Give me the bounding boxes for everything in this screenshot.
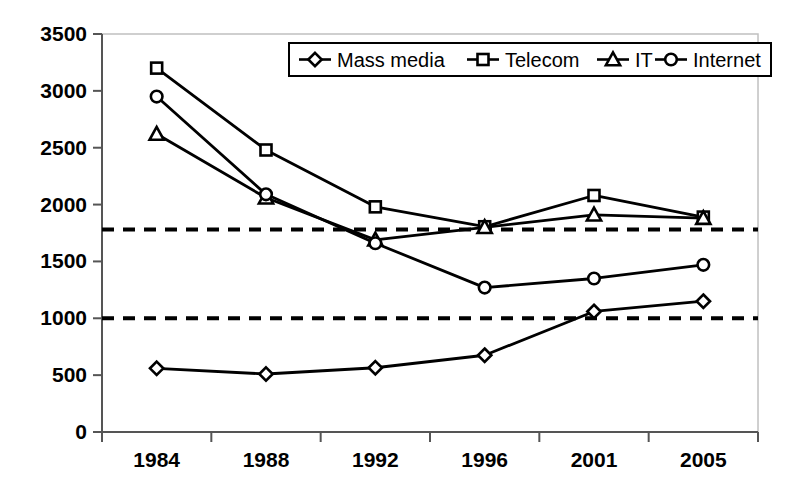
marker-circle [698, 259, 710, 271]
marker-circle [665, 54, 677, 66]
marker-square [478, 54, 489, 65]
legend[interactable]: Mass mediaTelecomITInternet [289, 43, 771, 76]
y-axis: 0500100015002000250030003500 [40, 22, 102, 443]
chart-canvas: 0500100015002000250030003500 19841988199… [0, 0, 789, 498]
y-axis-tick-label: 3500 [40, 22, 87, 45]
marker-square [261, 144, 272, 155]
x-axis-tick-label: 2001 [571, 448, 618, 471]
marker-square [589, 190, 600, 201]
y-axis-tick-label: 500 [52, 363, 87, 386]
x-axis: 198419881992199620012005 [102, 432, 758, 471]
marker-circle [370, 237, 382, 249]
marker-square [370, 201, 381, 212]
y-axis-tick-label: 1000 [40, 306, 87, 329]
legend-entry-label: Telecom [505, 49, 579, 71]
y-axis-tick-label: 1500 [40, 249, 87, 272]
marker-square [151, 63, 162, 74]
legend-entry-label: Internet [693, 49, 761, 71]
line-chart: 0500100015002000250030003500 19841988199… [0, 0, 789, 498]
y-axis-tick-label: 0 [75, 420, 87, 443]
x-axis-tick-label: 1996 [461, 448, 508, 471]
marker-circle [151, 91, 163, 103]
marker-circle [260, 189, 272, 201]
x-axis-tick-label: 2005 [680, 448, 727, 471]
legend-entry-label: Mass media [337, 49, 446, 71]
y-axis-tick-label: 3000 [40, 79, 87, 102]
marker-circle [479, 282, 491, 294]
y-axis-tick-label: 2000 [40, 193, 87, 216]
marker-circle [588, 273, 600, 285]
x-axis-tick-label: 1988 [243, 448, 290, 471]
legend-entry-label: IT [635, 49, 653, 71]
y-axis-tick-label: 2500 [40, 136, 87, 159]
x-axis-tick-label: 1984 [133, 448, 180, 471]
x-axis-tick-label: 1992 [352, 448, 399, 471]
